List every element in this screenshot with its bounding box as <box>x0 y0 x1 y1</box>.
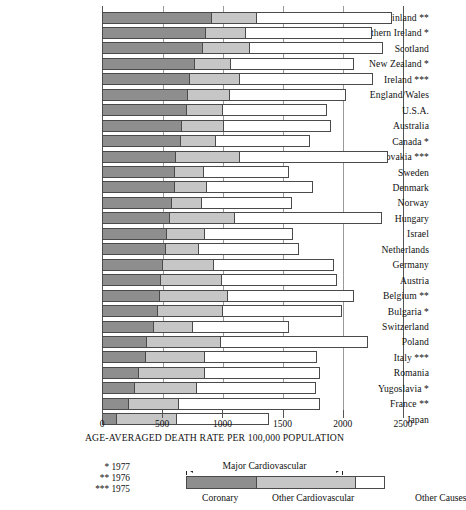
bar-segment-other-causes <box>204 351 317 363</box>
bar-segment-other-causes <box>178 398 319 410</box>
table-row: Switzerland <box>0 320 429 335</box>
bar-segment-coronary <box>102 351 145 363</box>
category-label: Germany <box>329 258 429 271</box>
bar-segment-other-causes <box>192 321 288 333</box>
table-row: Yugoslavia * <box>0 382 429 397</box>
category-label: U.S.A. <box>329 104 429 117</box>
x-tick-label: 2500 <box>394 419 413 429</box>
bar-segment-other-causes <box>223 120 331 132</box>
table-row: Italy *** <box>0 351 429 366</box>
bar-segment-coronary <box>102 243 165 255</box>
x-axis-title: AGE-AVERAGED DEATH RATE PER 100,000 POPU… <box>0 432 429 443</box>
bar-segment-other-causes <box>230 58 354 70</box>
x-tick-label: 1000 <box>213 419 232 429</box>
bar-segment-other-causes <box>222 104 327 116</box>
bar-segment-coronary <box>102 104 186 116</box>
table-row: Finland ** <box>0 11 429 26</box>
bar-segment-coronary <box>102 58 194 70</box>
bar-segment-other-causes <box>213 259 333 271</box>
table-row: Poland <box>0 335 429 350</box>
x-tick-0 <box>102 410 103 418</box>
bar-segment-coronary <box>102 89 187 101</box>
stacked-bar <box>102 305 342 317</box>
table-row: Israel <box>0 227 429 242</box>
category-label: France ** <box>329 397 429 410</box>
stacked-bar <box>102 12 392 24</box>
category-label: Sweden <box>329 166 429 179</box>
bar-segment-other-cardiovascular <box>205 27 245 39</box>
stacked-bar <box>102 42 383 54</box>
bar-segment-coronary <box>102 181 174 193</box>
bar-segment-other-cardiovascular <box>145 351 204 363</box>
bar-segment-other-cardiovascular <box>181 120 223 132</box>
plot-area: Finland **Northern Ireland *ScotlandNew … <box>0 0 429 420</box>
stacked-bar <box>102 104 327 116</box>
table-row: Romania <box>0 366 429 381</box>
bar-segment-coronary <box>102 382 134 394</box>
stacked-bar <box>102 259 334 271</box>
table-row: Ireland *** <box>0 73 429 88</box>
stacked-bar <box>102 382 316 394</box>
bar-segment-coronary <box>102 367 138 379</box>
stacked-bar <box>102 151 388 163</box>
stacked-bar <box>102 58 354 70</box>
bar-segment-other-causes <box>256 12 391 24</box>
stacked-bar <box>102 166 289 178</box>
table-row: Austria <box>0 274 429 289</box>
bar-segment-other-causes <box>204 367 320 379</box>
bar-segment-other-cardiovascular <box>211 12 256 24</box>
table-row: Canada * <box>0 135 429 150</box>
bar-segment-other-causes <box>220 336 368 348</box>
table-row: Netherlands <box>0 243 429 258</box>
table-row: Bulgaria * <box>0 305 429 320</box>
stacked-bar <box>102 398 320 410</box>
table-row: Sweden <box>0 166 429 181</box>
bar-segment-other-causes <box>222 305 342 317</box>
table-row: Australia <box>0 119 429 134</box>
bar-segment-other-cardiovascular <box>174 181 206 193</box>
table-row: New Zealand * <box>0 57 429 72</box>
legend-swatch-bar <box>186 476 385 489</box>
x-tick-1000 <box>222 410 223 418</box>
bar-segment-other-cardiovascular <box>169 212 235 224</box>
major-cardiovascular-bracket: Major Cardiovascular <box>186 462 343 474</box>
table-row: England/Wales <box>0 88 429 103</box>
bar-segment-other-causes <box>239 73 373 85</box>
bar-segment-coronary <box>102 73 189 85</box>
stacked-bar <box>102 212 382 224</box>
bar-segment-other-cardiovascular <box>186 104 222 116</box>
x-tick-2000 <box>343 410 344 418</box>
bar-segment-other-causes <box>221 274 337 286</box>
stacked-bar <box>102 135 310 147</box>
stacked-bar <box>102 290 354 302</box>
bracket-label: Major Cardiovascular <box>220 460 310 471</box>
bar-segment-other-causes <box>196 382 315 394</box>
legend-swatch-coronary <box>186 476 256 489</box>
bar-segment-other-cardiovascular <box>174 166 202 178</box>
x-tick-label: 500 <box>155 419 169 429</box>
bar-segment-coronary <box>102 228 166 240</box>
bar-segment-other-causes <box>227 290 354 302</box>
category-label: Bulgaria * <box>329 305 429 318</box>
bar-segment-coronary <box>102 305 157 317</box>
bar-segment-coronary <box>102 12 211 24</box>
table-row: Denmark <box>0 181 429 196</box>
table-row: Scotland <box>0 42 429 57</box>
bar-segment-coronary <box>102 120 181 132</box>
legend-label-coronary: Coronary <box>202 492 238 503</box>
legend-swatch-other-causes <box>355 476 385 489</box>
bar-segment-other-cardiovascular <box>138 367 204 379</box>
bar-segment-other-causes <box>204 228 293 240</box>
bar-segment-coronary <box>102 321 153 333</box>
bar-segment-coronary <box>102 336 146 348</box>
bar-segment-other-cardiovascular <box>162 259 213 271</box>
bar-segment-coronary <box>102 274 160 286</box>
bar-segment-other-causes <box>215 135 310 147</box>
bar-segment-other-cardiovascular <box>171 197 201 209</box>
category-label: Italy *** <box>329 351 429 364</box>
stacked-bar <box>102 274 337 286</box>
category-label: Canada * <box>329 135 429 148</box>
category-label: Yugoslavia * <box>329 382 429 395</box>
table-row: Czechoslovakia *** <box>0 150 429 165</box>
